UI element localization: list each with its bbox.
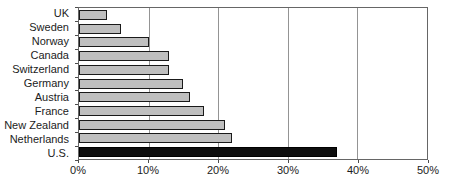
category-label-germany: Germany [0,77,73,91]
bar-netherlands [79,133,232,143]
category-label-norway: Norway [0,35,73,49]
x-axis-tick-10 [148,160,149,163]
bar-row-switzerland [79,63,427,77]
bar-u-s [79,147,337,157]
x-axis-tick-label-0: 0% [70,164,86,177]
y-axis-tick [75,21,78,22]
bar-row-germany [79,77,427,91]
x-axis-tick-20 [218,160,219,163]
x-axis-tick-40 [358,160,359,163]
bar-switzerland [79,65,169,75]
y-axis-tick [75,118,78,119]
y-axis-tick [75,63,78,64]
plot-area [78,7,428,160]
y-axis-tick [75,77,78,78]
y-axis-tick [75,146,78,147]
bar-chart-figure: UKSwedenNorwayCanadaSwitzerlandGermanyAu… [0,0,450,185]
bar-row-sweden [79,22,427,36]
category-label-new-zealand: New Zealand [0,118,73,132]
y-axis-tick [75,132,78,133]
y-axis-labels: UKSwedenNorwayCanadaSwitzerlandGermanyAu… [0,7,73,160]
category-label-uk: UK [0,7,73,21]
bar-row-new-zealand [79,118,427,132]
x-axis-tick-label-40: 40% [347,164,369,177]
x-axis-tick-label-20: 20% [207,164,229,177]
category-label-u-s: U.S. [0,146,73,160]
x-axis-tick-30 [288,160,289,163]
x-axis-tick-label-30: 30% [277,164,299,177]
y-axis-tick [75,7,78,8]
x-axis-tick-label-10: 10% [137,164,159,177]
x-axis-tick-label-50: 50% [417,164,439,177]
y-axis-tick [75,104,78,105]
bar-row-canada [79,49,427,63]
category-label-switzerland: Switzerland [0,63,73,77]
bar-norway [79,37,149,47]
bar-row-austria [79,90,427,104]
bar-row-norway [79,35,427,49]
bar-germany [79,79,183,89]
bar-row-france [79,104,427,118]
y-axis-tick [75,49,78,50]
bar-row-netherlands [79,132,427,146]
x-axis-tick-50 [428,160,429,163]
bar-austria [79,92,190,102]
bar-sweden [79,24,121,34]
x-axis-tick-0 [78,160,79,163]
category-label-canada: Canada [0,49,73,63]
category-label-sweden: Sweden [0,21,73,35]
bar-uk [79,10,107,20]
y-axis-tick [75,90,78,91]
bar-france [79,106,204,116]
bar-new-zealand [79,120,225,130]
category-label-france: France [0,104,73,118]
bar-row-u-s [79,145,427,159]
bar-rows [79,8,427,159]
bar-row-uk [79,8,427,22]
y-axis-tick [75,35,78,36]
bar-canada [79,51,169,61]
category-label-netherlands: Netherlands [0,132,73,146]
category-label-austria: Austria [0,90,73,104]
